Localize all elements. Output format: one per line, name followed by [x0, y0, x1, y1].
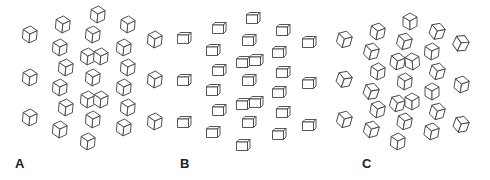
cube-icon: [335, 29, 353, 49]
cube-icon: [397, 72, 412, 90]
cube-icon: [237, 57, 251, 68]
cube-icon: [335, 109, 353, 129]
cube-icon: [93, 47, 108, 65]
panel-b-cube-array: [178, 13, 317, 151]
cube-icon: [247, 13, 261, 24]
cube-icon: [303, 37, 317, 48]
cube-icon: [147, 30, 162, 48]
cube-icon: [207, 45, 221, 56]
cube-icon: [362, 81, 381, 102]
cube-icon: [243, 117, 257, 128]
cube-icon: [85, 110, 100, 128]
cube-icon: [178, 75, 192, 86]
cube-icon: [303, 120, 317, 131]
cube-icon: [116, 38, 131, 56]
cube-icon: [369, 22, 386, 41]
cube-icon: [273, 47, 287, 58]
cube-array-canvas: [0, 0, 490, 180]
cube-icon: [213, 23, 227, 34]
cube-icon: [369, 100, 386, 119]
cube-icon: [213, 65, 227, 76]
cube-icon: [250, 97, 264, 108]
cube-icon: [396, 112, 413, 131]
cube-icon: [362, 41, 380, 61]
cube-icon: [390, 132, 405, 150]
cube-icon: [120, 58, 135, 76]
cube-icon: [362, 119, 380, 139]
panel-label-b: B: [180, 157, 189, 170]
panel-a-cube-array: [22, 5, 162, 150]
cube-icon: [237, 99, 251, 110]
cube-icon: [116, 118, 131, 136]
cube-icon: [52, 120, 67, 138]
cube-icon: [424, 42, 439, 60]
cube-icon: [22, 25, 37, 43]
cube-icon: [93, 90, 108, 108]
cube-icon: [423, 122, 440, 141]
cube-icon: [85, 25, 100, 43]
cube-icon: [428, 61, 446, 81]
cube-icon: [388, 93, 406, 113]
cube-icon: [453, 75, 470, 94]
cube-icon: [405, 52, 420, 70]
cube-icon: [80, 47, 95, 65]
cube-icon: [273, 129, 287, 140]
cube-icon: [403, 13, 417, 30]
cube-icon: [116, 78, 131, 96]
cube-icon: [80, 132, 95, 150]
cube-icon: [277, 107, 291, 118]
panel-label-a: A: [15, 157, 24, 170]
cube-icon: [303, 78, 317, 89]
cube-icon: [22, 68, 37, 86]
cube-icon: [277, 67, 291, 78]
cube-icon: [147, 70, 162, 88]
cube-icon: [52, 78, 67, 96]
cube-icon: [58, 98, 73, 116]
cube-icon: [277, 25, 291, 36]
cube-icon: [405, 93, 419, 110]
cube-icon: [207, 85, 221, 96]
figure: A B C: [0, 0, 490, 180]
cube-icon: [55, 15, 70, 33]
cube-icon: [22, 108, 37, 126]
cube-icon: [250, 55, 264, 66]
cube-icon: [389, 52, 406, 71]
cube-icon: [428, 21, 447, 42]
panel-c-cube-array: [335, 13, 471, 151]
cube-icon: [243, 75, 257, 86]
cube-icon: [428, 101, 446, 121]
cube-icon: [80, 90, 95, 108]
cube-icon: [273, 87, 287, 98]
cube-icon: [207, 127, 221, 138]
cube-icon: [90, 5, 105, 23]
cube-icon: [120, 98, 135, 116]
cube-icon: [425, 83, 439, 100]
cube-icon: [58, 58, 73, 76]
cube-icon: [85, 68, 100, 86]
panel-label-c: C: [362, 157, 371, 170]
cube-icon: [451, 33, 471, 54]
cube-icon: [52, 38, 67, 56]
cube-icon: [237, 140, 251, 151]
cube-icon: [452, 114, 471, 135]
cube-icon: [370, 62, 385, 80]
cube-icon: [335, 69, 354, 90]
cube-icon: [243, 35, 257, 46]
cube-icon: [213, 105, 227, 116]
cube-icon: [395, 31, 413, 51]
cube-icon: [178, 33, 192, 44]
cube-icon: [147, 112, 162, 130]
cube-icon: [178, 117, 192, 128]
cube-icon: [120, 15, 135, 33]
